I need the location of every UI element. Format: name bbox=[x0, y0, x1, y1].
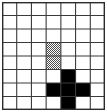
grid-cell-filled-c5-r8 bbox=[61, 97, 76, 111]
grid-cell-filled-c5-r7 bbox=[61, 83, 76, 97]
grid-cell-empty-c7-r3 bbox=[90, 29, 105, 43]
grid-cell-empty-c2-r5 bbox=[17, 56, 32, 70]
grid-cell-empty-c2-r4 bbox=[17, 43, 32, 57]
grid-cell-empty-c7-r6 bbox=[90, 70, 105, 84]
grid-cell-empty-c3-r1 bbox=[31, 2, 46, 16]
grid-cell-empty-c2-r3 bbox=[17, 29, 32, 43]
grid-cell-empty-c3-r8 bbox=[31, 97, 46, 111]
grid-cell-empty-c4-r8 bbox=[46, 97, 61, 111]
grid-cell-empty-c5-r5 bbox=[61, 56, 76, 70]
grid-cell-empty-c1-r2 bbox=[2, 16, 17, 30]
grid-cell-empty-c1-r1 bbox=[2, 2, 17, 16]
grid-cell-empty-c2-r6 bbox=[17, 70, 32, 84]
grid-cell-empty-c6-r2 bbox=[76, 16, 91, 30]
grid-cell-empty-c1-r3 bbox=[2, 29, 17, 43]
grid-cell-shaded-c4-r4 bbox=[46, 43, 61, 57]
grid-cell-empty-c7-r5 bbox=[90, 56, 105, 70]
grid-cell-empty-c3-r6 bbox=[31, 70, 46, 84]
grid-svg bbox=[2, 2, 105, 110]
grid-cell-empty-c3-r2 bbox=[31, 16, 46, 30]
grid-cell-empty-c2-r7 bbox=[17, 83, 32, 97]
grid-cell-empty-c5-r1 bbox=[61, 2, 76, 16]
grid-cell-empty-c6-r4 bbox=[76, 43, 91, 57]
grid-cell-filled-c5-r6 bbox=[61, 70, 76, 84]
grid-cell-empty-c4-r3 bbox=[46, 29, 61, 43]
grid-cell-empty-c3-r3 bbox=[31, 29, 46, 43]
grid-cell-empty-c5-r4 bbox=[61, 43, 76, 57]
grid-cell-empty-c2-r1 bbox=[17, 2, 32, 16]
grid-cell-empty-c4-r6 bbox=[46, 70, 61, 84]
grid-cell-empty-c6-r8 bbox=[76, 97, 91, 111]
grid-cell-filled-c4-r7 bbox=[46, 83, 61, 97]
grid-cell-filled-c6-r7 bbox=[76, 83, 91, 97]
grid-cell-empty-c2-r2 bbox=[17, 16, 32, 30]
grid-cell-empty-c6-r5 bbox=[76, 56, 91, 70]
grid-cell-empty-c1-r5 bbox=[2, 56, 17, 70]
grid-cell-empty-c3-r7 bbox=[31, 83, 46, 97]
grid-cell-empty-c1-r6 bbox=[2, 70, 17, 84]
grid-cell-empty-c4-r2 bbox=[46, 16, 61, 30]
grid-cell-empty-c1-r8 bbox=[2, 97, 17, 111]
grid-cell-shaded-c4-r5 bbox=[46, 56, 61, 70]
grid-diagram bbox=[2, 2, 105, 110]
grid-cell-empty-c3-r4 bbox=[31, 43, 46, 57]
grid-cell-empty-c2-r8 bbox=[17, 97, 32, 111]
grid-cell-empty-c1-r7 bbox=[2, 83, 17, 97]
grid-cell-empty-c7-r2 bbox=[90, 16, 105, 30]
grid-cell-empty-c5-r2 bbox=[61, 16, 76, 30]
grid-cell-empty-c1-r4 bbox=[2, 43, 17, 57]
figure-canvas bbox=[0, 0, 107, 112]
grid-cell-empty-c6-r3 bbox=[76, 29, 91, 43]
grid-cell-empty-c7-r1 bbox=[90, 2, 105, 16]
grid-cell-empty-c6-r6 bbox=[76, 70, 91, 84]
grid-cell-empty-c3-r5 bbox=[31, 56, 46, 70]
grid-cell-empty-c4-r1 bbox=[46, 2, 61, 16]
grid-cell-empty-c6-r1 bbox=[76, 2, 91, 16]
grid-cell-empty-c7-r8 bbox=[90, 97, 105, 111]
grid-cell-empty-c7-r4 bbox=[90, 43, 105, 57]
grid-cell-empty-c5-r3 bbox=[61, 29, 76, 43]
grid-cell-empty-c7-r7 bbox=[90, 83, 105, 97]
